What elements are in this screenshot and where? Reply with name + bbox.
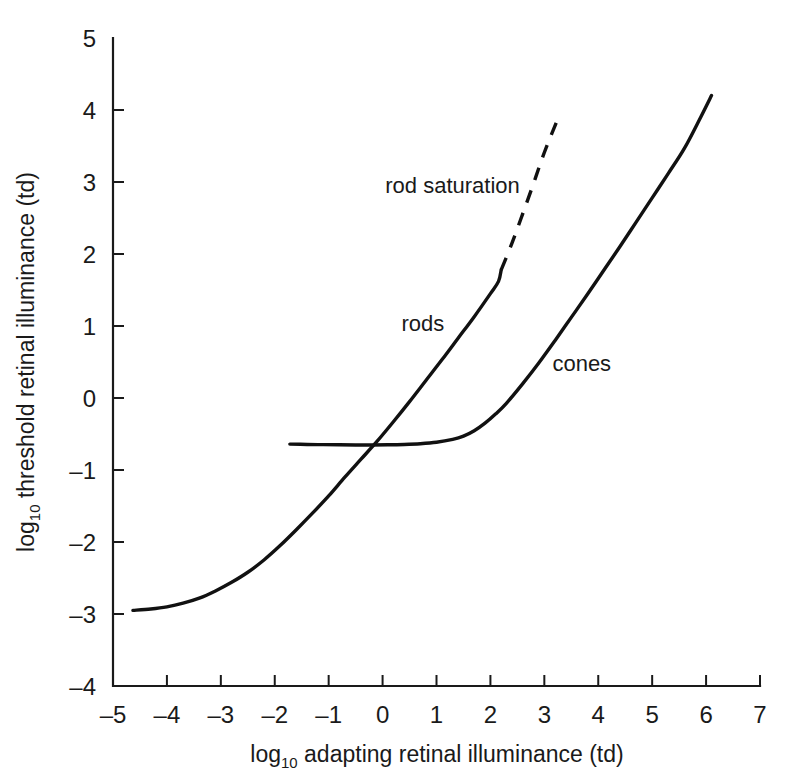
y-tick-label-2: –2 [69,529,96,556]
y-tick-label-7: 3 [83,169,96,196]
y-tick-label-4: 0 [83,385,96,412]
annotation-rod-saturation: rod saturation [385,173,520,198]
x-tick-label-8: 3 [538,701,551,728]
x-tick-label-2: –3 [207,701,234,728]
x-tick-label-11: 6 [699,701,712,728]
x-tick-label-3: –2 [261,701,288,728]
x-tick-label-4: –1 [315,701,342,728]
annotation-cones: cones [552,351,611,376]
y-tick-label-1: –3 [69,601,96,628]
y-tick-label-3: –1 [69,457,96,484]
increment-threshold-chart: –5–4–3–2–101234567 –4–3–2–1012345 rod sa… [0,0,797,782]
x-tick-label-9: 4 [592,701,605,728]
x-tick-label-1: –4 [154,701,181,728]
y-tick-label-8: 4 [83,97,96,124]
x-tick-label-6: 1 [430,701,443,728]
x-tick-label-5: 0 [376,701,389,728]
figure-root: –5–4–3–2–101234567 –4–3–2–1012345 rod sa… [0,0,797,782]
x-tick-label-7: 2 [484,701,497,728]
x-tick-label-12: 7 [753,701,766,728]
x-tick-label-0: –5 [100,701,127,728]
y-tick-label-0: –4 [69,673,96,700]
y-tick-label-5: 1 [83,313,96,340]
x-tick-label-10: 5 [645,701,658,728]
x-axis-title: log10 adapting retinal illuminance (td) [250,741,623,771]
y-tick-label-9: 5 [83,25,96,52]
y-tick-label-6: 2 [83,241,96,268]
y-axis-title: log10 threshold retinal illuminance (td) [13,172,43,552]
chart-background [0,0,797,782]
annotation-rods: rods [401,311,444,336]
